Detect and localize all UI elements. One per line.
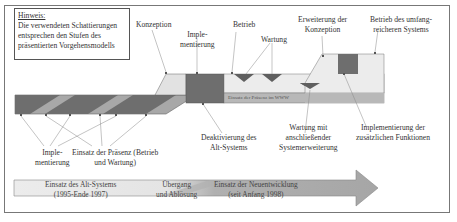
label-wartung: Wartung	[261, 35, 287, 45]
label-line: Wartung mit	[279, 123, 338, 133]
label-line: Imple-	[180, 30, 215, 40]
label-line: Erweiterung der	[298, 15, 347, 25]
label-konzeption: Konzeption	[136, 20, 171, 30]
label-line: Einsatz der Neuentwicklung	[214, 180, 298, 190]
label-line: Einsatz der Präsenz (Betrieb	[72, 148, 158, 158]
label-line: zusätzlichen Funktionen	[356, 133, 430, 143]
label-line: (1995-Ende 1997)	[45, 190, 116, 200]
label-line: und Wartung)	[72, 158, 158, 168]
label-line: Imple-	[35, 148, 70, 158]
label-line: Konzeption	[298, 25, 347, 35]
hinweis-note: Hinweis: Die verwendeten Schattierungen …	[14, 8, 130, 60]
label-zusatz-funktionen: Implementierung der zusätzlichen Funktio…	[356, 123, 430, 143]
label-betrieb: Betrieb	[233, 20, 255, 30]
label-line: Alt-Systems	[201, 143, 256, 153]
label-line: Betrieb des umfang-	[370, 15, 432, 25]
label-implementierung-bottom: Imple- mentierung	[35, 148, 70, 168]
label-line: mentierung	[35, 158, 70, 168]
label-einsatz-praesenz: Einsatz der Präsenz (Betrieb und Wartung…	[72, 148, 158, 168]
alt-system-bar	[15, 95, 196, 114]
label-wartung-erweiterung: Wartung mit anschließender Systemerweite…	[279, 123, 338, 153]
label-deaktivierung: Deaktivierung des Alt-Systems	[201, 133, 256, 153]
label-line: Deaktivierung des	[201, 133, 256, 143]
label-line: mentierung	[180, 40, 215, 50]
label-betrieb-umfang: Betrieb des umfang- reicheren Systems	[370, 15, 432, 35]
bar-text-praesenz: Einsatz der Präsenz im WWW	[228, 95, 289, 100]
note-line: präsentierten Vorgehensmodells	[18, 41, 126, 51]
label-line: Übergang	[156, 180, 197, 190]
label-line: Systemerweiterung	[279, 143, 338, 153]
label-line: Einsatz des Alt-Systems	[45, 180, 116, 190]
timeline-uebergang: Übergang und Ablösung	[156, 180, 197, 200]
label-line: (seit Anfang 1998)	[214, 190, 298, 200]
label-line: und Ablösung	[156, 190, 197, 200]
label-implementierung-top: Imple- mentierung	[180, 30, 215, 50]
label-line: anschließender	[279, 133, 338, 143]
note-line: Die verwendeten Schattierungen	[18, 21, 126, 31]
label-line: reicheren Systems	[370, 25, 432, 35]
timeline-alt-system: Einsatz des Alt-Systems (1995-Ende 1997)	[45, 180, 116, 200]
note-title: Hinweis:	[18, 11, 126, 21]
note-line: entsprechen den Stufen des	[18, 31, 126, 41]
neu-system-bar	[155, 54, 384, 114]
label-erweiterung-konzeption: Erweiterung der Konzeption	[298, 15, 347, 35]
label-line: Implementierung der	[356, 123, 430, 133]
timeline-neuentwicklung: Einsatz der Neuentwicklung (seit Anfang …	[214, 180, 298, 200]
